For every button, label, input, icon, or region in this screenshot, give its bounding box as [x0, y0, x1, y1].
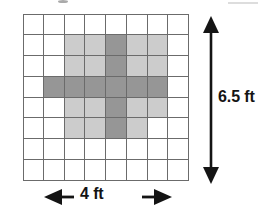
grid-container: [23, 14, 189, 181]
grid-cell-r6-c3: [85, 139, 106, 160]
grid-cell-r4-c7: [168, 98, 189, 119]
grid-cell-r2-c1: [44, 56, 65, 77]
grid-cell-r1-c3: [85, 35, 106, 56]
grid-cell-r4-c5: [127, 98, 148, 119]
grid-cell-r1-c6: [148, 35, 169, 56]
grid-cell-r5-c3: [85, 118, 106, 139]
grid-cell-r6-c5: [127, 139, 148, 160]
arrow-right-icon: [154, 189, 172, 205]
grid-cell-r1-c0: [23, 35, 44, 56]
shaded-grid: [23, 14, 189, 181]
grid-cell-r0-c7: [168, 14, 189, 35]
scan-artifact-line: [228, 2, 258, 4]
grid-cell-r4-c1: [44, 98, 65, 119]
grid-cell-r5-c6: [148, 118, 169, 139]
horizontal-dimension-label: 4 ft: [80, 185, 104, 203]
arrow-down-icon: [203, 167, 219, 184]
grid-cell-r0-c3: [85, 14, 106, 35]
grid-cell-r3-c1: [44, 77, 65, 98]
grid-cell-r1-c1: [44, 35, 65, 56]
grid-cell-r7-c1: [44, 160, 65, 181]
grid-cell-r5-c4: [106, 118, 127, 139]
grid-cell-r2-c0: [23, 56, 44, 77]
grid-cell-r3-c4: [106, 77, 127, 98]
horizontal-dimension-arrow: [44, 186, 172, 208]
vertical-dimension-label: 6.5 ft: [218, 88, 255, 106]
grid-cell-r4-c4: [106, 98, 127, 119]
grid-cell-r2-c5: [127, 56, 148, 77]
grid-cell-r1-c4: [106, 35, 127, 56]
grid-cell-r5-c1: [44, 118, 65, 139]
grid-cell-r4-c0: [23, 98, 44, 119]
grid-cell-r3-c7: [168, 77, 189, 98]
grid-cell-r1-c5: [127, 35, 148, 56]
grid-cell-r1-c2: [65, 35, 86, 56]
grid-cell-r2-c2: [65, 56, 86, 77]
grid-cell-r5-c5: [127, 118, 148, 139]
grid-cell-r0-c0: [23, 14, 44, 35]
grid-cell-r3-c3: [85, 77, 106, 98]
grid-cell-r7-c7: [168, 160, 189, 181]
grid-cell-r0-c4: [106, 14, 127, 35]
grid-cell-r3-c2: [65, 77, 86, 98]
area-grid-figure: 6.5 ft 4 ft: [0, 0, 265, 217]
grid-cell-r7-c0: [23, 160, 44, 181]
grid-cell-r1-c7: [168, 35, 189, 56]
grid-cell-r5-c2: [65, 118, 86, 139]
grid-cell-r6-c0: [23, 139, 44, 160]
grid-cell-r4-c2: [65, 98, 86, 119]
grid-cell-r0-c6: [148, 14, 169, 35]
grid-cell-r7-c6: [148, 160, 169, 181]
grid-cell-r6-c7: [168, 139, 189, 160]
grid-cell-r5-c7: [168, 118, 189, 139]
grid-cell-r6-c6: [148, 139, 169, 160]
grid-cell-r3-c6: [148, 77, 169, 98]
scan-artifact-dot: [58, 0, 68, 3]
grid-cell-r7-c4: [106, 160, 127, 181]
grid-cell-r6-c4: [106, 139, 127, 160]
grid-cell-r0-c5: [127, 14, 148, 35]
grid-cell-r6-c1: [44, 139, 65, 160]
grid-cell-r0-c1: [44, 14, 65, 35]
grid-cell-r4-c6: [148, 98, 169, 119]
grid-cell-r2-c3: [85, 56, 106, 77]
grid-cell-r4-c3: [85, 98, 106, 119]
grid-cell-r3-c5: [127, 77, 148, 98]
grid-cell-r2-c6: [148, 56, 169, 77]
grid-cell-r6-c2: [65, 139, 86, 160]
grid-cell-r2-c4: [106, 56, 127, 77]
grid-cell-r7-c5: [127, 160, 148, 181]
grid-cell-r5-c0: [23, 118, 44, 139]
grid-cell-r7-c2: [65, 160, 86, 181]
grid-cell-r3-c0: [23, 77, 44, 98]
grid-cell-r7-c3: [85, 160, 106, 181]
grid-cell-r0-c2: [65, 14, 86, 35]
grid-cell-r2-c7: [168, 56, 189, 77]
